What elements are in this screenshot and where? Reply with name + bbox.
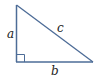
right-triangle-diagram: a c b [0,0,99,80]
label-c: c [57,21,64,35]
right-angle-marker [17,55,25,63]
hypotenuse-c-line [17,5,94,62]
label-a: a [7,27,14,41]
label-b: b [51,64,59,78]
